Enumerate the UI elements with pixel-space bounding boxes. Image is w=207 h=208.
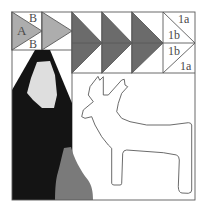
label-1a-bottom: 1a [180, 59, 192, 73]
quilt-pattern-diagram: A B B 1a 1b 1b 1a [0, 0, 207, 208]
label-1a-top: 1a [178, 12, 190, 26]
label-b-bottom: B [29, 37, 37, 51]
label-1b-lower: 1b [168, 44, 180, 58]
label-b-top: B [29, 11, 37, 25]
label-a: A [17, 23, 27, 38]
label-1b-upper: 1b [168, 28, 180, 42]
